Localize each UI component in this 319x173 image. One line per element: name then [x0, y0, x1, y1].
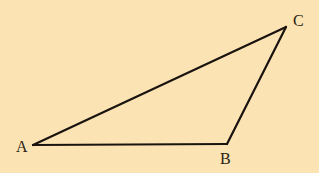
- edge-bc: [227, 27, 286, 144]
- edge-ca: [33, 27, 286, 145]
- vertex-label-a: A: [16, 139, 28, 155]
- triangle-figure: [0, 0, 319, 173]
- edge-ab: [33, 144, 227, 145]
- vertex-label-b: B: [220, 151, 231, 167]
- vertex-label-c: C: [293, 13, 304, 29]
- triangle-diagram: A B C: [0, 0, 319, 173]
